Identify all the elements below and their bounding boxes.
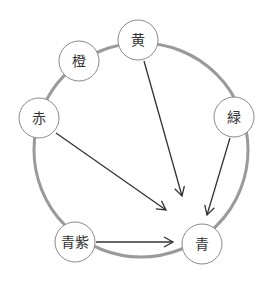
node-label: 緑	[227, 109, 241, 125]
arrow-0	[144, 61, 182, 196]
nodes-group: 黄橙赤緑青紫青	[19, 20, 254, 264]
node-red: 赤	[19, 98, 59, 138]
node-blue: 青	[182, 224, 222, 264]
color-wheel-diagram: 黄橙赤緑青紫青	[0, 0, 273, 281]
node-label: 橙	[72, 53, 86, 69]
arrows-group	[56, 61, 230, 242]
node-yellow: 黄	[118, 20, 158, 60]
node-label: 青紫	[61, 234, 89, 250]
node-label: 青	[195, 236, 209, 252]
node-label: 赤	[32, 110, 46, 126]
arrow-1	[56, 133, 166, 210]
node-blue-violet: 青紫	[55, 222, 95, 262]
node-orange: 橙	[59, 41, 99, 81]
node-label: 黄	[131, 32, 145, 48]
node-green: 緑	[214, 97, 254, 137]
arrow-2	[207, 138, 230, 215]
